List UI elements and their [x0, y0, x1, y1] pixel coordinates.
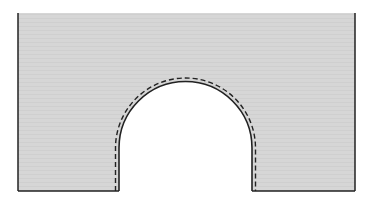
arch-diagram — [0, 0, 373, 208]
slab-shape — [18, 13, 355, 191]
